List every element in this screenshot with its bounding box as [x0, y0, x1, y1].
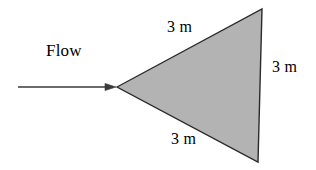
flow-arrow-head	[105, 83, 116, 90]
dimension-label-bottom: 3 m	[171, 131, 196, 147]
flow-label: Flow	[46, 42, 82, 59]
figure-container: Flow 3 m 3 m 3 m	[0, 0, 316, 170]
dimension-label-right: 3 m	[272, 59, 297, 75]
dimension-label-top: 3 m	[167, 19, 192, 35]
diagram-canvas	[0, 0, 316, 170]
